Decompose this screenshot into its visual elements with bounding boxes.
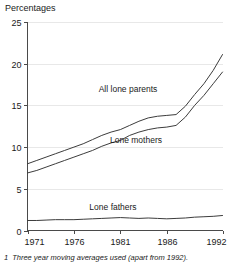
x-tick-label: 1986 xyxy=(157,237,177,247)
axes-group xyxy=(28,22,223,231)
x-tick-label: 1992 xyxy=(206,237,226,247)
footnote-number: 1 xyxy=(4,253,8,262)
y-tick-label: 15 xyxy=(11,101,21,111)
data-line-lone-fathers xyxy=(28,215,223,220)
footnote-text: Three year moving averages used (apart f… xyxy=(12,253,188,262)
y-tick-label: 0 xyxy=(16,227,21,237)
x-tick-label: 1976 xyxy=(64,237,84,247)
gridlines-group xyxy=(28,23,223,190)
y-tick-label: 5 xyxy=(16,185,21,195)
line-chart-svg: 0510152025 19711976198119861992 All lone… xyxy=(0,0,236,268)
chart-figure: Percentages 0510152025 19711976198119861… xyxy=(0,0,236,268)
y-tick-group: 0510152025 xyxy=(11,18,27,237)
x-tick-label: 1971 xyxy=(25,237,45,247)
y-tick-label: 10 xyxy=(11,143,21,153)
y-tick-label: 20 xyxy=(11,60,21,70)
x-tick-group: 19711976198119861992 xyxy=(25,231,227,247)
x-tick-label: 1981 xyxy=(110,237,130,247)
y-tick-label: 25 xyxy=(11,18,21,28)
series-label-lone-fathers: Lone fathers xyxy=(89,202,136,212)
series-label-all-lone-parents: All lone parents xyxy=(99,84,158,94)
series-label-lone-mothers: Lone mothers xyxy=(110,135,162,145)
footnote: 1Three year moving averages used (apart … xyxy=(4,253,188,262)
